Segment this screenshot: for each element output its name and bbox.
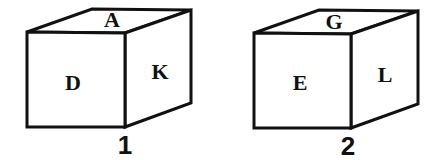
cube-2-right-label: L [378, 62, 393, 87]
cube-1-top-label: A [104, 7, 120, 32]
cube-2-top-label: G [325, 9, 342, 34]
cube-2-front-label: E [293, 70, 308, 95]
cube-1-right-label: K [151, 59, 168, 84]
cube-diagram: A D K 1 G E L 2 [0, 0, 428, 160]
cube-2: G E L 2 [254, 9, 418, 160]
cube-1: A D K 1 [27, 7, 191, 160]
cube-2-number: 2 [341, 131, 355, 160]
cube-1-number: 1 [118, 130, 132, 160]
cube-1-front-label: D [65, 70, 81, 95]
